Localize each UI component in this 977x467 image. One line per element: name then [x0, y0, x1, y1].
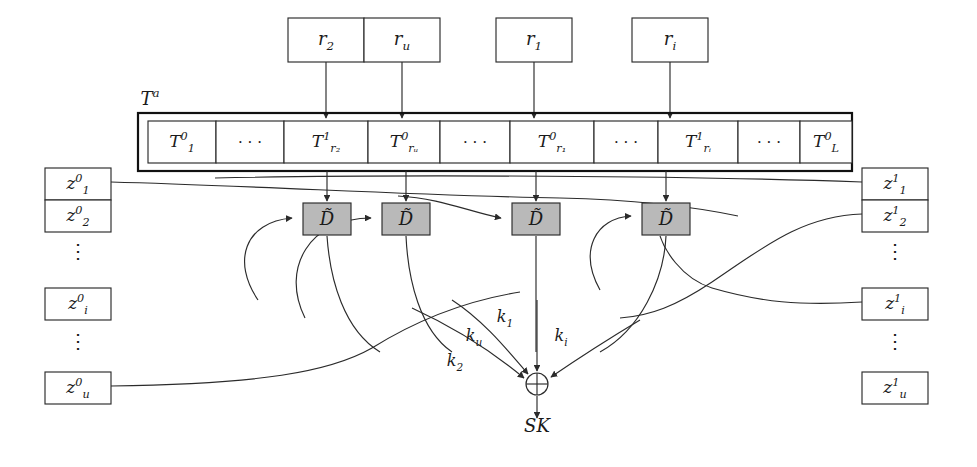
cell-ellipsis-1-label: · · · — [238, 133, 262, 151]
z0-u-box: z0u — [45, 372, 111, 404]
z0-i-box: z0i — [45, 288, 111, 320]
cell-ellipsis-3: · · · — [594, 121, 658, 163]
key-labels: k1kuk2ki — [447, 307, 568, 373]
cell-T-L: T0L — [800, 121, 852, 163]
cell-ellipsis-1: · · · — [216, 121, 284, 163]
array-label-group: Ta — [140, 86, 159, 109]
key-label-ku-text: ku — [466, 326, 483, 348]
connector-into-d1 — [245, 218, 292, 300]
d-box-4: D̃ — [642, 203, 690, 235]
d-box-4-label: D̃ — [658, 208, 674, 229]
table-array: T01· · ·T1r₂T0rᵤ· · ·T0r₁· · ·T1rᵢ· · ·T… — [138, 113, 852, 171]
r-2-box: r2 — [288, 18, 364, 62]
cell-T-r1: T0r₁ — [510, 121, 594, 163]
cell-ellipsis-2-label: · · · — [463, 133, 487, 151]
cell-ellipsis-2: · · · — [440, 121, 510, 163]
cell-T-ri: T1rᵢ — [658, 121, 738, 163]
d-box-1-label: D̃ — [319, 208, 335, 229]
d-box-3-label: D̃ — [528, 208, 544, 229]
d-box-1: D̃ — [303, 203, 351, 235]
cell-T-r2: T1r₂ — [284, 121, 368, 163]
array-label: Ta — [140, 86, 159, 109]
top-input-arrows — [326, 62, 670, 118]
z-to-d-connectors — [111, 176, 862, 386]
z1-2-box: z12 — [862, 200, 928, 232]
left-vdots-1: ⋮ — [68, 239, 88, 263]
xor-node-group — [526, 373, 548, 395]
connector-d1-out — [327, 236, 380, 352]
connector-z0-1 — [111, 182, 560, 198]
left-vdots-2: ⋮ — [68, 329, 88, 353]
r-i-box: ri — [632, 18, 708, 62]
key-label-ki: ki — [554, 326, 567, 348]
connector-z1-i-tail — [660, 236, 712, 288]
xor-arrow-ki — [551, 320, 640, 377]
right-z-column: z11z12⋮z1i⋮z1u — [862, 168, 928, 404]
connector-z0-u — [111, 348, 372, 386]
xor-arrow-ku — [452, 300, 528, 374]
connector-into-d4 — [590, 216, 631, 290]
right-vdots-1: ⋮ — [885, 239, 905, 263]
diagram-canvas: r2rur1ri T01· · ·T1r₂T0rᵤ· · ·T0r₁· · ·T… — [0, 0, 977, 467]
key-label-ku: ku — [466, 326, 483, 348]
key-label-k2: k2 — [447, 351, 464, 373]
cell-ellipsis-4-label: · · · — [757, 133, 781, 151]
cell-T-1: T01 — [148, 121, 216, 163]
d-box-2: D̃ — [382, 203, 430, 235]
connector-z1-2 — [712, 214, 862, 282]
left-z-column: z01z02⋮z0i⋮z0u — [45, 168, 111, 404]
d-box-3: D̃ — [512, 203, 560, 235]
connector-z1-2-tail — [620, 282, 712, 318]
cell-ellipsis-4: · · · — [738, 121, 800, 163]
connector-z1-1 — [215, 176, 862, 182]
xor-node — [526, 373, 548, 395]
cell-ellipsis-3-label: · · · — [614, 133, 638, 151]
key-label-k1-text: k1 — [497, 307, 513, 329]
connector-d2-out — [406, 236, 452, 352]
sk-label-group: SK — [524, 415, 551, 436]
connector-d4-out — [600, 236, 666, 352]
z1-i-box: z1i — [862, 288, 928, 320]
z1-1-box: z11 — [862, 168, 928, 200]
z0-1-box: z01 — [45, 168, 111, 200]
key-label-k2-text: k2 — [447, 351, 464, 373]
z0-2-box: z02 — [45, 200, 111, 232]
z1-u-box: z1u — [862, 372, 928, 404]
r-1-box: r1 — [496, 18, 572, 62]
sk-output-label: SK — [524, 415, 551, 436]
key-label-k1: k1 — [497, 307, 513, 329]
key-label-ki-text: ki — [554, 326, 567, 348]
cryptographic-key-derivation-diagram: r2rur1ri T01· · ·T1r₂T0rᵤ· · ·T0r₁· · ·T… — [0, 0, 977, 467]
r-u-box: ru — [364, 18, 440, 62]
array-label-text: Ta — [140, 86, 159, 109]
right-vdots-2: ⋮ — [885, 329, 905, 353]
d-box-2-label: D̃ — [398, 208, 414, 229]
connector-z1-i — [712, 288, 862, 303]
cell-T-ru: T0rᵤ — [368, 121, 440, 163]
top-input-row: r2rur1ri — [288, 18, 708, 62]
